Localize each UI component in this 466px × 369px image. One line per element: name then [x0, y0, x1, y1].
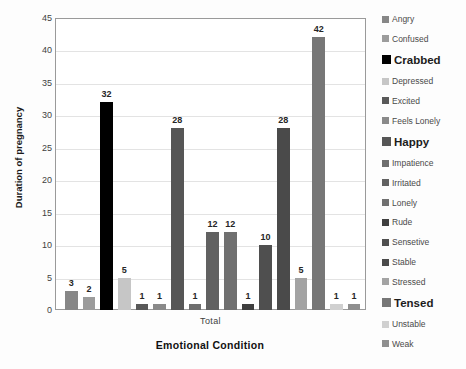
bar-excited: [136, 304, 149, 310]
x-axis-category-label: Total: [55, 316, 366, 326]
bar-crabbed: [100, 102, 113, 310]
bar-stable: [277, 128, 290, 310]
bar-value-label: 1: [192, 291, 197, 301]
legend-swatch-icon: [382, 97, 389, 104]
legend-label: Unstable: [392, 319, 426, 329]
bar-feels-lonely: [153, 304, 166, 310]
legend-swatch-icon: [382, 278, 389, 285]
y-axis-tick-label: 25: [28, 143, 52, 153]
legend-item-depressed[interactable]: Depressed: [382, 76, 433, 86]
legend-label: Lonely: [392, 198, 417, 208]
legend-swatch-icon: [382, 55, 391, 64]
legend-label: Excited: [392, 96, 420, 106]
y-axis-tick-label: 20: [28, 175, 52, 185]
bars-layer: 323251128112121102854211: [55, 18, 366, 310]
bar-depressed: [118, 278, 131, 310]
legend-label: Feels Lonely: [392, 116, 440, 126]
y-axis-tick-label: 30: [28, 110, 52, 120]
legend-label: Crabbed: [394, 54, 441, 66]
y-axis-tick-label: 0: [28, 305, 52, 315]
bar-value-label: 12: [225, 219, 235, 229]
bar-value-label: 1: [245, 291, 250, 301]
legend-swatch-icon: [382, 239, 389, 246]
chart-screenshot: 051015202530354045 Duration of pregnancy…: [0, 0, 466, 369]
legend-label: Stable: [392, 257, 416, 267]
legend-swatch-icon: [382, 35, 389, 42]
bar-value-label: 28: [172, 115, 182, 125]
bar-value-label: 1: [351, 291, 356, 301]
legend-swatch-icon: [382, 199, 389, 206]
y-axis-title: Duration of pregnancy: [13, 58, 24, 258]
bar-weak: [348, 304, 361, 310]
legend-item-crabbed[interactable]: Crabbed: [382, 54, 441, 66]
legend-item-impatience[interactable]: Impatience: [382, 158, 434, 168]
bar-value-label: 28: [278, 115, 288, 125]
legend-item-stressed[interactable]: Stressed: [382, 277, 426, 287]
bar-value-label: 1: [139, 291, 144, 301]
legend-item-tensed[interactable]: Tensed: [382, 297, 433, 309]
legend-swatch-icon: [382, 160, 389, 167]
legend-label: Impatience: [392, 158, 434, 168]
legend-swatch-icon: [382, 16, 389, 23]
legend-item-weak[interactable]: Weak: [382, 339, 414, 349]
bar-value-label: 5: [122, 265, 127, 275]
legend-item-feels-lonely[interactable]: Feels Lonely: [382, 116, 440, 126]
legend-label: Sensetive: [392, 237, 429, 247]
bar-value-label: 1: [157, 291, 162, 301]
bar-stressed: [295, 278, 308, 310]
bar-confused: [83, 297, 96, 310]
legend-item-angry[interactable]: Angry: [382, 14, 414, 24]
chart-title: [0, 0, 466, 9]
bar-value-label: 2: [86, 284, 91, 294]
y-axis-tick-label: 5: [28, 273, 52, 283]
legend-item-confused[interactable]: Confused: [382, 34, 428, 44]
bar-value-label: 3: [69, 278, 74, 288]
bar-irritated: [206, 232, 219, 310]
legend-swatch-icon: [382, 117, 389, 124]
bar-impatience: [189, 304, 202, 310]
x-axis-title: Emotional Condition: [40, 339, 380, 351]
legend-swatch-icon: [382, 137, 391, 146]
legend-label: Depressed: [392, 76, 433, 86]
legend-label: Angry: [392, 14, 414, 24]
y-axis-tick-label: 35: [28, 78, 52, 88]
y-axis-tick-label: 45: [28, 13, 52, 23]
bar-value-label: 42: [314, 24, 324, 34]
legend-swatch-icon: [382, 340, 389, 347]
legend-item-irritated[interactable]: Irritated: [382, 178, 421, 188]
legend-item-stable[interactable]: Stable: [382, 257, 416, 267]
bar-value-label: 32: [102, 89, 112, 99]
legend-item-happy[interactable]: Happy: [382, 136, 429, 148]
legend-item-lonely[interactable]: Lonely: [382, 198, 417, 208]
legend-swatch-icon: [382, 298, 391, 307]
bar-happy: [171, 128, 184, 310]
legend-swatch-icon: [382, 259, 389, 266]
y-axis-tick-label: 40: [28, 45, 52, 55]
legend: AngryConfusedCrabbedDepressedExcitedFeel…: [382, 10, 466, 360]
legend-swatch-icon: [382, 179, 389, 186]
legend-label: Happy: [394, 136, 429, 148]
legend-label: Confused: [392, 34, 428, 44]
y-axis-tick-label: 10: [28, 240, 52, 250]
legend-item-sensetive[interactable]: Sensetive: [382, 237, 429, 247]
legend-item-rude[interactable]: Rude: [382, 217, 412, 227]
bar-value-label: 1: [334, 291, 339, 301]
legend-item-excited[interactable]: Excited: [382, 96, 420, 106]
bar-unstable: [330, 304, 343, 310]
legend-item-unstable[interactable]: Unstable: [382, 319, 426, 329]
legend-label: Irritated: [392, 178, 421, 188]
bar-value-label: 5: [298, 265, 303, 275]
legend-label: Stressed: [392, 277, 426, 287]
legend-label: Tensed: [394, 297, 433, 309]
bar-sensetive: [259, 245, 272, 310]
bar-value-label: 10: [261, 232, 271, 242]
legend-swatch-icon: [382, 78, 389, 85]
y-axis-tick-labels: 051015202530354045: [28, 18, 52, 310]
bar-lonely: [224, 232, 237, 310]
y-axis-tick-label: 15: [28, 208, 52, 218]
bar-angry: [65, 291, 78, 310]
bar-value-label: 12: [208, 219, 218, 229]
bar-rude: [242, 304, 255, 310]
legend-label: Rude: [392, 217, 412, 227]
legend-label: Weak: [392, 339, 414, 349]
